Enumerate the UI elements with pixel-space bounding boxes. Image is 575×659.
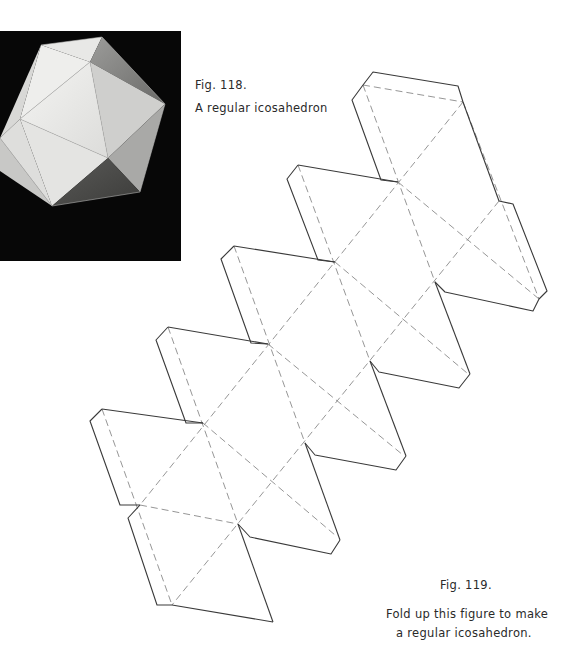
fig-119-caption-line1: Fold up this figure to make	[386, 609, 548, 621]
icosahedron-net-diagram	[0, 0, 575, 659]
cut-lines	[90, 72, 547, 622]
fig-119-label: Fig. 119.	[440, 580, 492, 592]
fig-119-caption-line2: a regular icosahedron.	[396, 628, 532, 640]
fold-lines	[102, 85, 539, 605]
